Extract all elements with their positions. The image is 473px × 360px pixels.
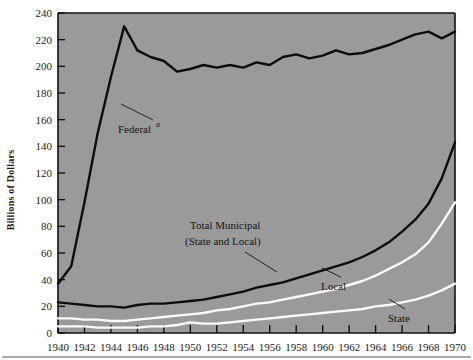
x-tick-label: 1962: [338, 341, 360, 353]
y-tick-label: 160: [36, 114, 53, 126]
y-axis-tick-labels: 020406080100120140160180200220240: [36, 7, 53, 339]
state-annotation-label: State: [388, 312, 410, 324]
total-municipal-annotation-line2: (State and Local): [185, 235, 261, 248]
x-tick-label: 1948: [153, 341, 176, 353]
line-chart-svg: 020406080100120140160180200220240 194019…: [0, 0, 473, 360]
y-tick-label: 220: [36, 34, 53, 46]
total-municipal-annotation-line1: Total Municipal: [190, 219, 260, 231]
x-tick-label: 1942: [73, 341, 95, 353]
y-tick-label: 240: [36, 7, 53, 19]
x-tick-label: 1946: [126, 341, 149, 353]
x-tick-label: 1964: [365, 341, 388, 353]
y-tick-label: 120: [36, 167, 53, 179]
y-tick-label: 80: [41, 220, 53, 232]
federal-annotation-label: Federal: [118, 123, 151, 135]
y-tick-label: 180: [36, 87, 53, 99]
x-tick-label: 1966: [391, 341, 414, 353]
plot-background: [58, 13, 455, 333]
x-tick-label: 1956: [259, 341, 282, 353]
y-tick-label: 20: [41, 300, 53, 312]
x-tick-label: 1970: [444, 341, 467, 353]
x-tick-label: 1944: [100, 341, 123, 353]
y-tick-label: 0: [47, 327, 53, 339]
x-tick-label: 1960: [312, 341, 335, 353]
y-tick-label: 100: [36, 194, 53, 206]
x-tick-label: 1968: [418, 341, 441, 353]
y-tick-label: 60: [41, 247, 53, 259]
x-tick-label: 1940: [47, 341, 70, 353]
y-tick-label: 140: [36, 140, 53, 152]
x-tick-label: 1952: [206, 341, 228, 353]
local-annotation-label: Local: [321, 280, 346, 292]
x-tick-label: 1954: [232, 341, 255, 353]
chart-figure: 020406080100120140160180200220240 194019…: [0, 0, 473, 360]
y-tick-label: 200: [36, 60, 53, 72]
x-tick-label: 1958: [285, 341, 308, 353]
federal-annotation-superscript: a: [156, 120, 160, 129]
y-tick-label: 40: [41, 274, 53, 286]
y-axis-label: Billions of Dollars: [5, 150, 16, 230]
x-axis-tick-labels: 1940194219441946194819501952195419561958…: [47, 341, 467, 353]
x-tick-label: 1950: [179, 341, 202, 353]
